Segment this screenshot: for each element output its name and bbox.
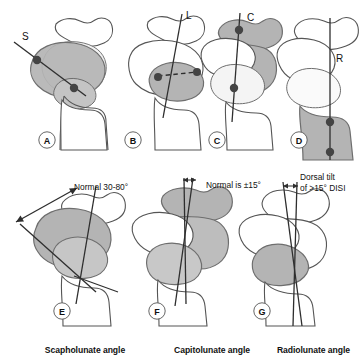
panel-letter-a: A: [44, 136, 51, 146]
axis-marker-ulnar-b: [154, 73, 162, 81]
axis-marker-distal-d: [326, 148, 334, 156]
panel-letter-g: G: [258, 307, 265, 317]
axis-label-d: R: [336, 53, 343, 64]
panel-letter-c: C: [214, 136, 221, 146]
axis-label-c: C: [247, 12, 254, 23]
axis-marker-proximal-c: [235, 26, 243, 34]
carpal-angles-figure: S A L B C C: [0, 0, 363, 363]
axis-marker-proximal-a: [33, 56, 41, 64]
caption-scapholunate: Scapholunate angle: [10, 345, 160, 355]
axis-marker-radial-b: [193, 68, 201, 76]
panel-letter-e: E: [59, 307, 65, 317]
axis-marker-distal-a: [70, 84, 78, 92]
axis-label-b: L: [186, 10, 192, 21]
axis-label-a: S: [22, 31, 29, 42]
bone-lunate-highlight-b: [149, 62, 203, 101]
panel-letter-f: F: [154, 307, 160, 317]
caption-radiolunate: Radiolunate angle: [264, 345, 363, 355]
caption-capitolunate: Capitolunate angle: [160, 345, 264, 355]
caption-row: Scapholunate angle Capitolunate angle Ra…: [0, 345, 363, 355]
axis-marker-distal-c: [230, 84, 238, 92]
annotation-g-line2: of >15° DISI: [300, 183, 345, 193]
annotation-e: Normal 30-80°: [74, 182, 128, 192]
annotation-f: Normal is ±15°: [206, 180, 261, 190]
panel-letter-d: D: [296, 136, 303, 146]
axis-marker-proximal-d: [326, 118, 334, 126]
panel-letter-b: B: [130, 136, 137, 146]
annotation-g-line1: Dorsal tilt: [300, 172, 336, 182]
